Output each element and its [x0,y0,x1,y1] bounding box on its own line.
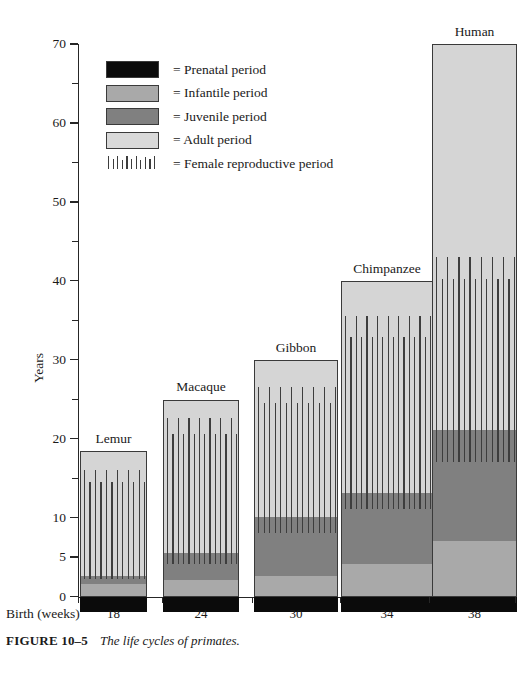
x-tick-label-human: 38 [435,606,515,622]
x-tick-38 [515,597,516,603]
y-axis-title: Years [31,323,47,413]
y-tick-40 [70,280,78,281]
legend-label-repro: = Female reproductive period [173,156,333,172]
legend-item-repro: = Female reproductive period [106,152,333,176]
x-tick-label-lemur: 18 [74,606,154,622]
x-tick-origin [78,597,79,603]
prenatal-swatch [106,61,159,78]
segment-infantile-lemur [81,584,146,596]
bar-gibbon[interactable] [254,360,338,597]
segment-infantile-gibbon [255,576,337,596]
figure-caption: FIGURE 10–5The life cycles of primates. [6,633,240,649]
x-tick-24 [252,597,253,603]
bar-label-gibbon: Gibbon [234,340,358,356]
y-tick-minor-15 [72,478,78,479]
hatch-line [140,160,141,169]
hatch-line [122,160,123,169]
hatch-line [154,156,155,169]
y-tick-label-5: 5 [26,550,66,564]
x-tick-label-gibbon: 30 [256,606,336,622]
y-tick-50 [70,201,78,202]
bar-label-human: Human [412,24,532,40]
y-tick-label-60: 60 [26,116,66,130]
segment-infantile-human [433,541,516,596]
legend-item-adult: = Adult period [106,129,333,153]
infantile-swatch [106,85,159,102]
y-tick-5 [70,556,78,557]
x-tick-34 [429,597,430,603]
bar-macaque[interactable] [163,400,239,597]
segment-infantile-chimpanzee [342,564,432,596]
segment-adult-lemur [81,451,146,576]
figure-number: FIGURE 10–5 [6,633,88,648]
segment-adult-chimpanzee [342,281,432,493]
legend-item-prenatal: = Prenatal period [106,58,333,82]
hatch-line [117,156,118,169]
legend-label-juvenile: = Juvenile period [173,109,267,125]
y-tick-label-40: 40 [26,274,66,288]
segment-juvenile-gibbon [255,517,337,576]
hatch-line [131,159,132,169]
hatch-line [136,156,137,169]
repro-hatch-icon [106,155,159,172]
y-tick-label-50: 50 [26,195,66,209]
hatch-line [113,159,114,169]
legend-label-infantile: = Infantile period [173,85,268,101]
segment-juvenile-macaque [164,553,238,581]
hatch-line [145,157,146,169]
chart-legend: = Prenatal period= Infantile period= Juv… [106,58,333,176]
legend-label-adult: = Adult period [173,132,252,148]
y-tick-10 [70,517,78,518]
x-axis-title: Birth (weeks) [6,606,80,622]
y-tick-0 [70,596,78,597]
y-tick-label-10: 10 [26,511,66,525]
bar-label-lemur: Lemur [60,431,167,447]
bar-label-macaque: Macaque [143,379,259,395]
x-tick-label-macaque: 24 [161,606,241,622]
hatch-line [108,156,109,169]
figure-caption-text: The life cycles of primates. [100,633,240,648]
legend-item-juvenile: = Juvenile period [106,105,333,129]
y-tick-label-70: 70 [26,37,66,51]
y-tick-70 [70,43,78,44]
hatch-line [149,159,150,169]
segment-juvenile-human [433,430,516,541]
y-tick-minor-55 [72,162,78,163]
bar-chimpanzee[interactable] [341,281,433,597]
adult-swatch [106,132,159,149]
x-tick-label-chimpanzee: 34 [347,606,427,622]
segment-infantile-macaque [164,580,238,596]
segment-adult-human [433,44,516,430]
y-tick-minor-35 [72,320,78,321]
x-tick-30 [340,597,341,603]
x-tick-18 [162,597,163,603]
y-tick-label-0: 0 [26,590,66,604]
y-tick-60 [70,122,78,123]
figure-container: 0510203040506070 Years LemurMacaqueGibbo… [0,0,532,675]
segment-juvenile-chimpanzee [342,493,432,564]
bar-lemur[interactable] [80,451,147,597]
segment-adult-gibbon [255,360,337,517]
juvenile-swatch [106,108,159,125]
segment-adult-macaque [164,400,238,553]
legend-label-prenatal: = Prenatal period [173,62,266,78]
segment-juvenile-lemur [81,576,146,584]
bar-human[interactable] [432,44,517,597]
y-tick-minor-65 [72,83,78,84]
y-tick-minor-45 [72,241,78,242]
y-tick-30 [70,359,78,360]
hatch-line [126,156,127,169]
legend-item-infantile: = Infantile period [106,82,333,106]
y-tick-minor-25 [72,399,78,400]
